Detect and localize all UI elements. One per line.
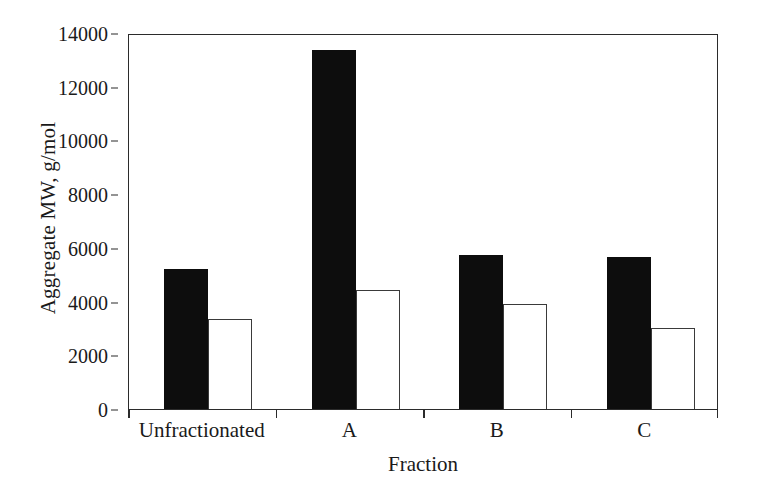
bar-filled bbox=[607, 257, 651, 409]
bar-hollow bbox=[651, 328, 695, 409]
bar-hollow bbox=[503, 304, 547, 409]
x-tick-label: C bbox=[637, 418, 651, 443]
x-tick-label: Unfractionated bbox=[139, 418, 265, 443]
y-tick-label: 14000 bbox=[58, 23, 108, 46]
x-axis-title: Fraction bbox=[128, 452, 718, 477]
y-tick-mark bbox=[111, 87, 118, 88]
bar-hollow bbox=[208, 319, 252, 409]
bar-chart-figure: Aggregate MW, g/mol 02000400060008000100… bbox=[0, 0, 757, 496]
x-tick-mark bbox=[571, 410, 573, 418]
x-tick-mark bbox=[423, 410, 425, 418]
bar-filled bbox=[164, 269, 208, 409]
y-tick-mark bbox=[111, 356, 118, 357]
bar-filled bbox=[459, 255, 503, 409]
y-tick-mark bbox=[111, 302, 118, 303]
x-axis-tick-labels: UnfractionatedABC bbox=[128, 418, 718, 450]
y-tick-label: 0 bbox=[98, 399, 108, 422]
plot-area bbox=[128, 34, 718, 410]
x-tick-mark bbox=[717, 410, 719, 418]
x-tick-mark bbox=[276, 410, 278, 418]
x-tick-mark bbox=[128, 410, 130, 418]
y-tick-label: 4000 bbox=[68, 291, 108, 314]
y-tick-mark bbox=[111, 34, 118, 35]
y-axis-tick-labels: 02000400060008000100001200014000 bbox=[40, 34, 118, 410]
bar-group bbox=[277, 35, 425, 409]
y-tick-label: 8000 bbox=[68, 184, 108, 207]
y-tick-label: 6000 bbox=[68, 237, 108, 260]
y-tick-mark bbox=[111, 141, 118, 142]
y-tick-label: 12000 bbox=[58, 76, 108, 99]
bar-group bbox=[424, 35, 572, 409]
y-tick-label: 10000 bbox=[58, 130, 108, 153]
x-tick-label: A bbox=[342, 418, 357, 443]
x-tick-label: B bbox=[490, 418, 504, 443]
bar-groups bbox=[129, 35, 717, 409]
y-tick-mark bbox=[111, 195, 118, 196]
bar-group bbox=[129, 35, 277, 409]
y-tick-mark bbox=[111, 410, 118, 411]
bar-group bbox=[572, 35, 720, 409]
bar-filled bbox=[312, 50, 356, 409]
y-tick-mark bbox=[111, 248, 118, 249]
bar-hollow bbox=[356, 290, 400, 410]
y-tick-label: 2000 bbox=[68, 345, 108, 368]
